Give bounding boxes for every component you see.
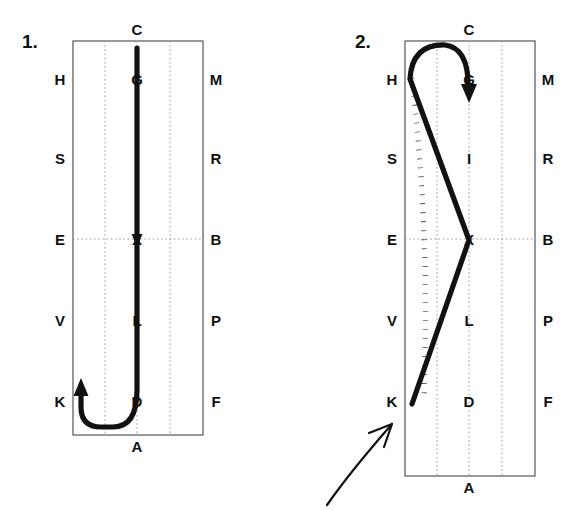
edge-label-M: M xyxy=(542,71,555,88)
edge-label-H: H xyxy=(55,71,66,88)
callout-arrow xyxy=(327,424,392,505)
panel-2-number: 2. xyxy=(355,31,371,52)
panel-1-arrowhead-up xyxy=(74,378,89,396)
edge-label-C: C xyxy=(132,21,143,38)
panel-2-dotted-trace xyxy=(412,78,426,398)
edge-label-A: A xyxy=(464,479,475,496)
edge-label-V: V xyxy=(387,312,397,329)
edge-label-H: H xyxy=(387,71,398,88)
panel-2: 2. G I X L D C A xyxy=(327,21,554,505)
inner-label-D: D xyxy=(464,393,475,410)
edge-label-C: C xyxy=(464,21,475,38)
edge-label-R: R xyxy=(211,150,222,167)
diagram-canvas: 1. G I X L D xyxy=(0,0,585,510)
edge-label-S: S xyxy=(55,150,65,167)
edge-label-K: K xyxy=(55,393,66,410)
panel-1-number: 1. xyxy=(22,31,38,52)
panel-2-arrowhead-down xyxy=(461,84,477,103)
edge-label-A: A xyxy=(132,438,143,455)
edge-label-S: S xyxy=(387,150,397,167)
edge-label-M: M xyxy=(210,71,223,88)
figure-root: 1. G I X L D xyxy=(0,0,585,510)
edge-label-K: K xyxy=(387,393,398,410)
panel-2-box xyxy=(405,41,535,476)
edge-label-E: E xyxy=(387,231,397,248)
inner-label-L: L xyxy=(464,312,473,329)
panel-1: 1. G I X L D xyxy=(22,21,222,455)
edge-label-P: P xyxy=(543,312,553,329)
edge-label-F: F xyxy=(211,393,220,410)
edge-label-E: E xyxy=(55,231,65,248)
inner-label-I: I xyxy=(467,150,471,167)
edge-label-P: P xyxy=(211,312,221,329)
edge-label-B: B xyxy=(211,231,222,248)
callout-arrow-shaft xyxy=(327,424,392,505)
edge-label-V: V xyxy=(55,312,65,329)
panel-2-gridlines xyxy=(405,41,535,476)
panel-2-stroke-trace xyxy=(410,45,469,404)
edge-label-F: F xyxy=(543,393,552,410)
edge-label-R: R xyxy=(543,150,554,167)
edge-label-B: B xyxy=(543,231,554,248)
panel-1-stroke-trace xyxy=(81,48,137,427)
